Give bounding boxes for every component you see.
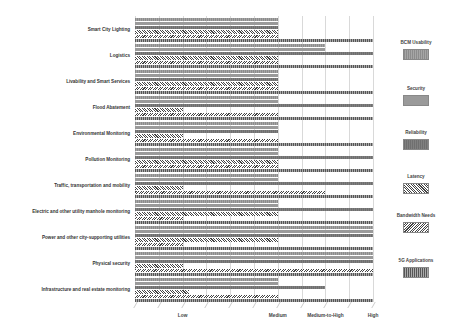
bar [135, 44, 325, 47]
category-label: Traffic, transportation and mobility [54, 182, 130, 187]
bar [135, 174, 278, 177]
bar [135, 212, 278, 215]
bar [135, 113, 278, 116]
bar [135, 126, 278, 129]
bar [135, 252, 373, 255]
bar [135, 165, 278, 168]
bar [135, 134, 183, 137]
x-tick [371, 302, 376, 308]
category-label: Electric and other utility manhole monit… [32, 208, 130, 213]
bar [135, 243, 183, 246]
bar [135, 226, 373, 229]
x-tick-label: Medium [269, 313, 287, 318]
bar [135, 61, 278, 64]
bar [135, 238, 278, 241]
bar [135, 104, 373, 107]
bar [135, 191, 325, 194]
bar [135, 100, 278, 103]
bar [135, 65, 373, 68]
bar [135, 30, 278, 33]
category-label: Flood Abatement [93, 104, 130, 109]
x-tick [347, 302, 352, 308]
legend-label: Security [396, 86, 436, 92]
bar [135, 148, 278, 151]
legend-swatch [403, 95, 429, 106]
plot-area [135, 16, 373, 302]
bar [135, 74, 278, 77]
legend-swatch [403, 49, 429, 60]
bar [135, 234, 373, 237]
bar [135, 186, 183, 189]
x-tick [205, 302, 210, 308]
legend-label: 5G Applications [396, 258, 436, 264]
legend-item: Security [396, 86, 436, 106]
bar [135, 96, 278, 99]
x-tick [300, 302, 305, 308]
category-label: Smart City Lighting [88, 26, 130, 31]
bar [135, 221, 373, 224]
bar [135, 264, 183, 267]
bar [135, 91, 373, 94]
bar [135, 230, 373, 233]
bar [135, 160, 278, 163]
bar [135, 269, 373, 272]
legend-item: BCM Usability [396, 40, 436, 60]
bar [135, 70, 278, 73]
bar [135, 139, 278, 142]
bar [135, 39, 373, 42]
gridline [373, 16, 374, 302]
bar [135, 156, 373, 159]
x-tick [276, 302, 281, 308]
bar [135, 117, 373, 120]
bar [135, 130, 278, 133]
bar [135, 35, 278, 38]
category-label: Environmental Monitoring [73, 130, 130, 135]
legend-label: Bandwidth Needs [396, 213, 436, 219]
bar [135, 22, 278, 25]
bar [135, 290, 189, 293]
bar [135, 78, 278, 81]
x-tick [181, 302, 186, 308]
bar [135, 178, 278, 181]
bar [135, 200, 278, 203]
category-label: Logistics [110, 52, 130, 57]
legend-item: 5G Applications [396, 258, 436, 278]
legend-label: Latency [396, 174, 436, 180]
bar [135, 273, 373, 276]
legend-item: Bandwidth Needs [396, 213, 436, 233]
category-label: Pollution Monitoring [85, 156, 130, 161]
bar [135, 217, 183, 220]
bar [135, 87, 278, 90]
bar [135, 122, 278, 125]
bar [135, 256, 373, 259]
category-label: Physical security [92, 260, 130, 265]
legend-swatch [403, 139, 429, 150]
bar [135, 295, 278, 298]
bar [135, 278, 278, 281]
bar [135, 282, 278, 285]
legend-item: Latency [396, 174, 436, 194]
x-tick-label: High [368, 313, 379, 318]
bar [135, 182, 373, 185]
bar [135, 26, 278, 29]
legend-label: BCM Usability [396, 40, 436, 46]
bar [135, 286, 325, 289]
bar [135, 56, 278, 59]
legend-swatch [403, 183, 429, 194]
bar [135, 204, 278, 207]
x-tick [157, 302, 162, 308]
category-label: Livability and Smart Services [66, 78, 130, 83]
category-label: Power and other city-supporting utilitie… [42, 234, 130, 239]
bar [135, 247, 373, 250]
bar [135, 82, 278, 85]
x-tick [133, 302, 138, 308]
bar [135, 195, 373, 198]
bar [135, 169, 373, 172]
bar [135, 143, 373, 146]
legend-swatch [403, 267, 429, 278]
bar [135, 260, 373, 263]
legend-item: Reliability [396, 130, 436, 150]
bar [135, 52, 373, 55]
x-tick-label: Low [178, 313, 188, 318]
bar [135, 208, 373, 211]
